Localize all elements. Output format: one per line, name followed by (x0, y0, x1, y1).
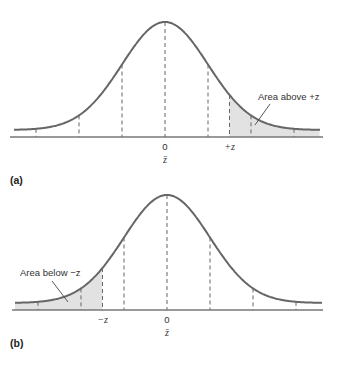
panel-b: Area below −z 0 z̄ −z (b) (10, 195, 323, 349)
annotation-area-below: Area below −z (20, 267, 81, 278)
center-tick-label: 0 (164, 314, 169, 325)
z-tick-label: −z (97, 314, 108, 325)
z-tick-label: +z (224, 141, 235, 152)
normal-distribution-figure: Area above +z 0 z̄ +z (a) Area below −z … (0, 0, 340, 367)
bell-curve (14, 22, 320, 130)
panel-label: (a) (10, 174, 23, 186)
bell-curve (15, 195, 322, 303)
annotation-area-above: Area above +z (258, 91, 320, 102)
center-tick-label: 0 (162, 141, 167, 152)
mean-label: z̄ (162, 154, 167, 165)
mean-label: z̄ (164, 327, 169, 338)
panel-a: Area above +z 0 z̄ +z (a) (10, 22, 323, 186)
panel-label: (b) (10, 337, 23, 349)
